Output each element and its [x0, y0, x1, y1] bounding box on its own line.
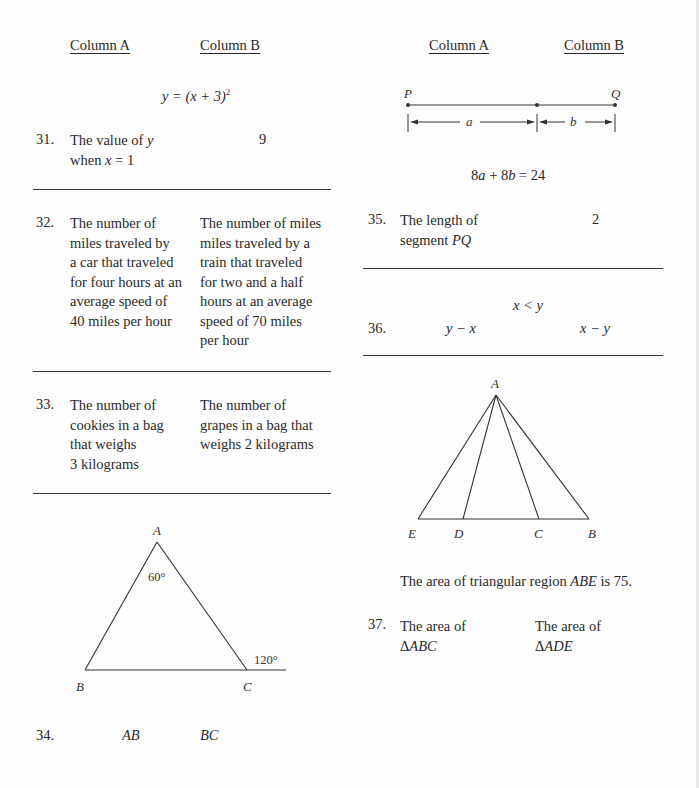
exterior-angle-c-label: 120°: [254, 653, 278, 667]
column-a-quantity: y − x: [446, 320, 476, 337]
triangle-abc-figure: A 60° 120° B C: [0, 510, 340, 700]
point-q-label: Q: [611, 86, 621, 101]
column-b-header: Column B: [564, 37, 624, 54]
column-b-quantity: 2: [592, 211, 599, 228]
angle-a-label: 60°: [148, 570, 166, 584]
question-number: 37.: [368, 616, 386, 633]
given-statement: The area of triangular region ABE is 75.: [400, 573, 632, 590]
divider: [363, 355, 663, 356]
vertex-d-label: D: [453, 526, 464, 541]
column-b-quantity: 9: [259, 131, 266, 148]
column-b-header: Column B: [200, 37, 260, 54]
column-b-quantity: BC: [200, 727, 219, 744]
vertex-b-label: B: [588, 526, 596, 541]
vertex-a-label: A: [490, 376, 499, 391]
vertex-b-label: B: [76, 679, 84, 694]
segment-a-label: a: [466, 114, 473, 129]
column-a-header: Column A: [70, 37, 130, 54]
column-a-quantity: The value of y when x = 1: [70, 131, 153, 170]
column-b-quantity: The number of grapes in a bag that weigh…: [200, 396, 314, 455]
divider: [33, 371, 331, 372]
vertex-c-label: C: [534, 526, 543, 541]
column-b-quantity: The number of miles miles traveled by a …: [200, 214, 321, 351]
given-equation: 8a + 8b = 24: [471, 167, 545, 184]
question-number: 36.: [368, 320, 386, 337]
column-a-quantity: The length of segment PQ: [400, 211, 478, 250]
column-a-header: Column A: [429, 37, 489, 54]
triangle-abe-figure: A E D C B: [380, 370, 640, 550]
column-b-quantity: x − y: [580, 320, 610, 337]
given-inequality: x < y: [513, 297, 543, 314]
question-number: 34.: [36, 727, 54, 744]
vertex-c-label: C: [243, 679, 252, 694]
question-number: 32.: [36, 214, 54, 231]
question-number: 33.: [36, 396, 54, 413]
point-p-label: P: [403, 86, 412, 101]
question-number: 35.: [368, 211, 386, 228]
column-a-quantity: The number of cookies in a bag that weig…: [70, 396, 164, 474]
divider: [33, 189, 331, 190]
vertex-e-label: E: [407, 526, 416, 541]
divider: [33, 493, 331, 494]
question-number: 31.: [36, 131, 54, 148]
vertex-a-label: A: [152, 523, 161, 538]
given-equation: y = (x + 3)2: [162, 87, 230, 105]
column-a-quantity: AB: [122, 727, 140, 744]
segment-pq-figure: P Q a b: [380, 80, 640, 140]
segment-b-label: b: [570, 114, 577, 129]
divider: [363, 268, 663, 269]
column-b-quantity: The area of ΔADE: [535, 616, 601, 656]
column-a-quantity: The area of ΔABC: [400, 616, 466, 656]
column-a-quantity: The number of miles traveled by a car th…: [70, 214, 182, 331]
